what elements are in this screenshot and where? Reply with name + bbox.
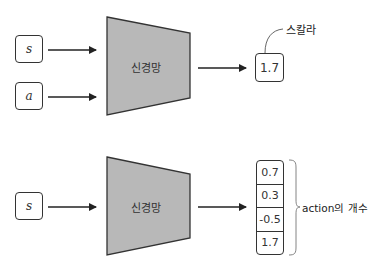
input-box-s-top: s — [15, 35, 43, 63]
output-scalar-value: 1.7 — [260, 61, 279, 75]
input-box-a-top: a — [15, 82, 43, 110]
input-label-s-top: s — [26, 42, 32, 56]
action-count-annotation: action의 개수 — [302, 200, 368, 215]
input-label-s-bottom: s — [26, 199, 32, 213]
input-label-a-top: a — [25, 89, 32, 103]
scalar-annotation: 스칼라 — [286, 21, 316, 37]
output-vector-cell: 0.3 — [257, 185, 283, 209]
output-vector-cell: 1.7 — [257, 232, 283, 255]
input-box-s-bottom: s — [15, 192, 43, 220]
network-label-bottom: 신경망 — [131, 199, 161, 215]
output-scalar-box: 1.7 — [255, 53, 284, 82]
output-vector-cell: 0.7 — [257, 161, 283, 185]
output-vector: 0.7 0.3 -0.5 1.7 — [256, 160, 284, 255]
scalar-callout-line — [265, 29, 283, 53]
network-label-top: 신경망 — [131, 59, 161, 75]
diagram-canvas — [0, 0, 371, 274]
action-count-brace — [289, 160, 300, 255]
output-vector-cell: -0.5 — [257, 208, 283, 232]
